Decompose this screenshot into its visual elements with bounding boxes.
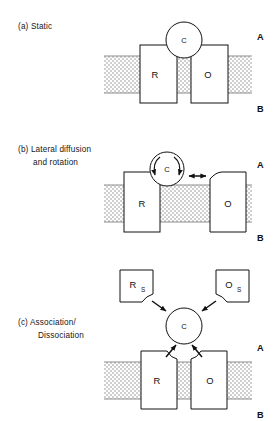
panel-c-carrier: C	[166, 308, 202, 344]
carrier-label: C	[164, 165, 170, 174]
panel-a-receptor: R	[140, 45, 177, 103]
panel-a-caption-line-1: (a) Static	[18, 22, 52, 31]
panel-c-caption-line-1: (c) Association/	[18, 318, 76, 327]
effector-label: O	[206, 375, 213, 386]
effector-label: O	[204, 69, 211, 80]
panel-b-caption-line-2: and rotation	[33, 158, 78, 167]
panel-b: (b) Lateral diffusion and rotation R O	[18, 145, 264, 243]
panel-c-effector: O	[191, 351, 227, 409]
membrane-model-figure: (a) Static R O C A B	[0, 0, 279, 421]
panel-a-carrier: C	[166, 22, 202, 58]
panel-a-effector: O	[191, 45, 228, 103]
effector-substrate-sublabel: S	[237, 286, 241, 293]
receptor-label: R	[154, 375, 161, 386]
carrier-label: C	[181, 36, 187, 45]
panel-c-caption-line-2: Dissociation	[38, 331, 84, 340]
panel-c-receptor: R	[141, 351, 177, 409]
panel-c: (c) Association/ Dissociation R O C	[18, 270, 264, 420]
panel-b-effector: O	[210, 172, 246, 232]
effector-label: O	[224, 198, 231, 209]
receptor-substrate-label: R	[130, 279, 137, 290]
carrier-label: C	[181, 322, 187, 331]
panel-c-membrane	[104, 362, 252, 399]
receptor-label: R	[152, 69, 159, 80]
panel-b-caption-line-1: (b) Lateral diffusion	[18, 145, 91, 154]
panel-b-compartment-top-label: A	[257, 160, 264, 170]
membrane-band-fill	[104, 362, 252, 399]
association-arrow-upper-left	[152, 301, 166, 311]
receptor-body	[140, 45, 177, 103]
effector-substrate-label: O	[225, 279, 232, 290]
panel-b-compartment-bottom-label: B	[257, 233, 264, 243]
panel-c-compartment-bottom-label: B	[257, 410, 264, 420]
receptor-substrate-sublabel: S	[141, 286, 145, 293]
panel-a-compartment-bottom-label: B	[257, 104, 264, 114]
figure-root: (a) Static R O C A B	[0, 0, 279, 421]
membrane-band-fill	[104, 56, 252, 93]
panel-b-carrier: C	[150, 152, 184, 186]
association-arrow-upper-right	[202, 301, 216, 311]
panel-c-compartment-top-label: A	[257, 343, 264, 353]
receptor-label: R	[139, 198, 146, 209]
panel-c-effector-substrate: O S	[216, 270, 249, 302]
panel-a-compartment-top-label: A	[257, 32, 264, 42]
panel-a: (a) Static R O C A B	[18, 22, 264, 114]
receptor-substrate-body	[120, 270, 153, 302]
panel-a-membrane	[104, 56, 252, 93]
panel-c-receptor-substrate: R S	[120, 270, 153, 302]
